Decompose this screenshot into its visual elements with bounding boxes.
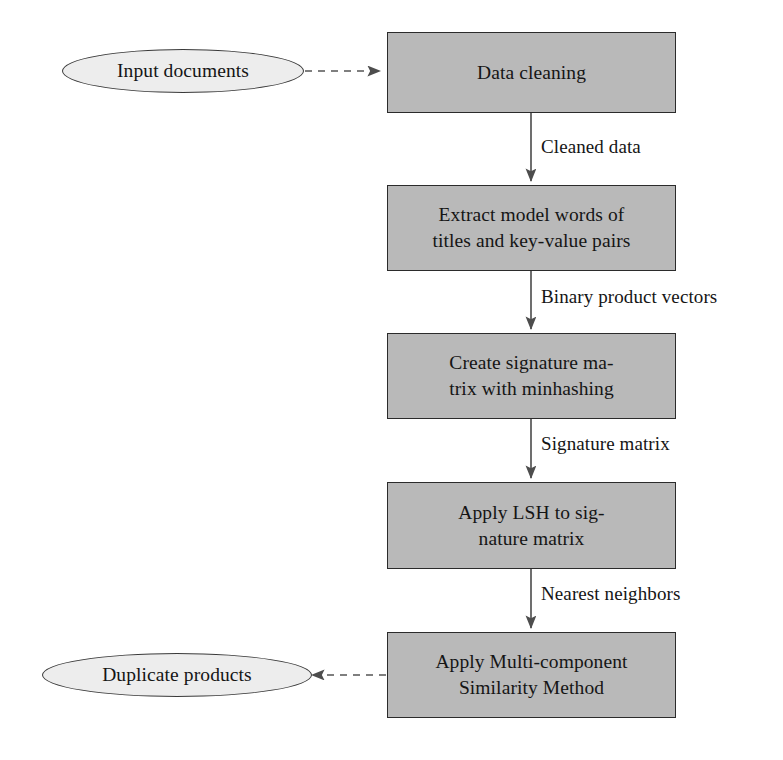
process-box-create-signature-matrix: Create signature ma- trix with minhashin…: [387, 333, 676, 419]
edge-label-binary-product-vectors: Binary product vectors: [541, 287, 717, 308]
process-box-apply-msm-label: Apply Multi-component Similarity Method: [435, 649, 627, 701]
process-box-apply-lsh-label: Apply LSH to sig- nature matrix: [458, 500, 604, 552]
edge-label-nearest-neighbors: Nearest neighbors: [541, 584, 680, 605]
edge-label-cleaned-data: Cleaned data: [541, 137, 641, 158]
terminator-duplicate-products-label: Duplicate products: [102, 663, 252, 686]
process-box-data-cleaning-label: Data cleaning: [477, 60, 586, 86]
process-box-data-cleaning: Data cleaning: [387, 32, 676, 113]
process-box-extract-model-words: Extract model words of titles and key-va…: [387, 185, 676, 271]
process-box-apply-msm: Apply Multi-component Similarity Method: [387, 632, 676, 718]
edge-label-signature-matrix: Signature matrix: [541, 434, 670, 455]
process-box-create-signature-matrix-label: Create signature ma- trix with minhashin…: [449, 350, 614, 402]
terminator-input-documents-label: Input documents: [117, 59, 249, 82]
terminator-input-documents: Input documents: [62, 49, 304, 93]
terminator-duplicate-products: Duplicate products: [42, 653, 312, 697]
flowchart-canvas: Data cleaning (dashed, rightward) --> Ex…: [0, 0, 783, 760]
process-box-extract-model-words-label: Extract model words of titles and key-va…: [432, 202, 630, 254]
process-box-apply-lsh: Apply LSH to sig- nature matrix: [387, 482, 676, 569]
